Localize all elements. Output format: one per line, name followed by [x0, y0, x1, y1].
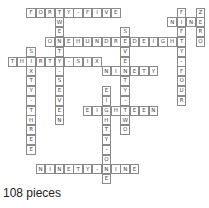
crossword-cell[interactable]: E — [196, 17, 206, 27]
crossword-cell[interactable]: T — [102, 125, 112, 135]
crossword-cell[interactable]: I — [92, 8, 102, 18]
crossword-cell[interactable]: N — [120, 164, 130, 174]
crossword-cell[interactable]: N — [102, 164, 112, 174]
crossword-cell[interactable]: E — [55, 106, 65, 116]
crossword-cell[interactable]: F — [177, 8, 187, 18]
crossword-cell[interactable]: F — [177, 27, 187, 37]
crossword-cell[interactable]: - — [177, 57, 187, 67]
crossword-cell[interactable]: R — [111, 37, 121, 47]
crossword-cell[interactable]: T — [8, 57, 18, 67]
crossword-cell[interactable]: E — [64, 37, 74, 47]
crossword-cell[interactable]: N — [36, 164, 46, 174]
crossword-cell[interactable]: H — [167, 37, 177, 47]
crossword-cell[interactable]: - — [55, 66, 65, 76]
crossword-cell[interactable]: U — [177, 86, 187, 96]
crossword-cell[interactable]: - — [64, 57, 74, 67]
crossword-cell[interactable]: T — [73, 164, 83, 174]
crossword-cell[interactable]: N — [120, 66, 130, 76]
crossword-cell[interactable]: - — [120, 96, 130, 106]
crossword-cell[interactable]: S — [26, 47, 36, 57]
crossword-cell[interactable]: R — [45, 8, 55, 18]
crossword-cell[interactable]: N — [55, 164, 65, 174]
crossword-cell[interactable]: O — [177, 76, 187, 86]
crossword-cell[interactable]: R — [36, 57, 46, 67]
crossword-cell[interactable]: E — [130, 164, 140, 174]
crossword-cell[interactable]: O — [196, 37, 206, 47]
crossword-cell[interactable]: T — [55, 47, 65, 57]
crossword-cell[interactable]: Y — [55, 57, 65, 67]
crossword-cell[interactable]: X — [26, 66, 36, 76]
crossword-cell[interactable]: I — [177, 17, 187, 27]
crossword-cell[interactable]: E — [55, 27, 65, 37]
crossword-cell[interactable]: I — [111, 164, 121, 174]
crossword-cell[interactable]: V — [120, 47, 130, 57]
crossword-cell[interactable]: G — [158, 37, 168, 47]
crossword-cell[interactable]: E — [26, 135, 36, 145]
crossword-cell[interactable]: E — [120, 57, 130, 67]
crossword-cell[interactable]: O — [102, 155, 112, 165]
crossword-cell[interactable]: E — [139, 37, 149, 47]
crossword-cell[interactable]: Y — [26, 86, 36, 96]
crossword-cell[interactable]: Y — [149, 66, 159, 76]
crossword-cell[interactable]: O — [120, 125, 130, 135]
crossword-cell[interactable]: N — [149, 106, 159, 116]
crossword-cell[interactable]: T — [120, 106, 130, 116]
crossword-cell[interactable]: X — [92, 57, 102, 67]
crossword-cell[interactable]: - — [92, 164, 102, 174]
crossword-cell[interactable]: E — [130, 106, 140, 116]
crossword-cell[interactable]: R — [196, 27, 206, 37]
crossword-cell[interactable]: E — [139, 106, 149, 116]
crossword-cell[interactable]: V — [55, 96, 65, 106]
crossword-cell[interactable]: Y — [120, 86, 130, 96]
crossword-cell[interactable]: - — [102, 145, 112, 155]
crossword-cell[interactable]: Y — [177, 47, 187, 57]
crossword-cell[interactable]: O — [36, 8, 46, 18]
crossword-cell[interactable]: E — [102, 86, 112, 96]
crossword-cell[interactable]: I — [102, 96, 112, 106]
crossword-cell[interactable]: N — [55, 115, 65, 125]
crossword-cell[interactable]: T — [26, 106, 36, 116]
crossword-cell[interactable]: N — [55, 37, 65, 47]
crossword-cell[interactable]: I — [83, 57, 93, 67]
crossword-cell[interactable]: N — [102, 66, 112, 76]
crossword-cell[interactable]: - — [73, 8, 83, 18]
crossword-cell[interactable]: F — [177, 66, 187, 76]
crossword-cell[interactable]: I — [111, 66, 121, 76]
crossword-cell[interactable]: Y — [64, 8, 74, 18]
crossword-cell[interactable]: G — [102, 106, 112, 116]
crossword-cell[interactable]: N — [92, 37, 102, 47]
crossword-cell[interactable]: E — [120, 37, 130, 47]
crossword-cell[interactable]: Y — [83, 164, 93, 174]
crossword-cell[interactable]: W — [55, 17, 65, 27]
crossword-cell[interactable]: U — [83, 37, 93, 47]
crossword-cell[interactable]: I — [45, 164, 55, 174]
crossword-cell[interactable]: Z — [196, 8, 206, 18]
crossword-cell[interactable]: T — [45, 57, 55, 67]
crossword-cell[interactable]: T — [177, 37, 187, 47]
crossword-cell[interactable]: T — [26, 76, 36, 86]
crossword-cell[interactable]: E — [130, 66, 140, 76]
crossword-cell[interactable]: I — [92, 106, 102, 116]
crossword-cell[interactable]: Y — [102, 135, 112, 145]
crossword-cell[interactable]: W — [120, 115, 130, 125]
crossword-cell[interactable]: D — [102, 37, 112, 47]
crossword-cell[interactable]: V — [102, 8, 112, 18]
crossword-cell[interactable]: T — [139, 66, 149, 76]
crossword-cell[interactable]: S — [55, 76, 65, 86]
crossword-cell[interactable]: H — [111, 106, 121, 116]
crossword-cell[interactable]: S — [120, 27, 130, 37]
crossword-cell[interactable]: F — [26, 8, 36, 18]
crossword-cell[interactable]: D — [130, 37, 140, 47]
crossword-cell[interactable]: T — [55, 8, 65, 18]
crossword-cell[interactable]: R — [26, 125, 36, 135]
crossword-cell[interactable]: E — [64, 164, 74, 174]
crossword-cell[interactable]: N — [167, 17, 177, 27]
crossword-cell[interactable]: E — [83, 106, 93, 116]
crossword-cell[interactable]: E — [55, 86, 65, 96]
crossword-cell[interactable]: S — [73, 57, 83, 67]
crossword-cell[interactable]: I — [26, 57, 36, 67]
crossword-cell[interactable]: - — [26, 96, 36, 106]
crossword-cell[interactable]: I — [149, 37, 159, 47]
crossword-cell[interactable]: H — [17, 57, 27, 67]
crossword-cell[interactable]: O — [45, 37, 55, 47]
